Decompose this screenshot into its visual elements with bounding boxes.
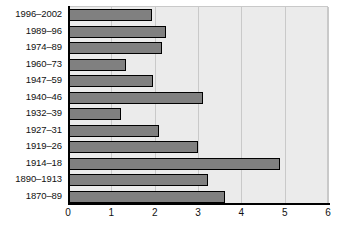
x-axis-tick-label: 1 [109,207,115,219]
bar [68,174,208,186]
y-axis-tick-label: 1927–31 [0,125,62,135]
y-axis-tick-label: 1996–2002 [0,9,62,19]
x-axis-tick-label: 4 [239,207,245,219]
x-axis-tick-label: 6 [325,207,331,219]
bar [68,75,153,87]
x-axis-tick-label: 0 [65,207,71,219]
bar [68,125,159,137]
bar-row [68,125,328,137]
y-axis-tick-label: 1890–1913 [0,174,62,184]
y-axis-tick-label: 1914–18 [0,158,62,168]
y-axis-spine [68,6,70,205]
x-axis-tick-label: 3 [195,207,201,219]
gridline [328,7,329,204]
bar-row [68,26,328,38]
bar [68,158,280,170]
bar-row [68,42,328,54]
x-axis-tick-label: 5 [282,207,288,219]
bar-row [68,9,328,21]
bar [68,191,225,203]
x-axis-tick-label: 2 [152,207,158,219]
y-axis-tick-label: 1870–89 [0,191,62,201]
x-axis-spine [68,203,330,205]
bar-chart: 1996–20021989–961974–891960–731947–59194… [0,0,342,233]
bar [68,42,162,54]
y-axis-tick-label: 1989–96 [0,26,62,36]
bar-row [68,59,328,71]
y-axis-tick-label: 1960–73 [0,59,62,69]
y-axis-tick-label: 1974–89 [0,42,62,52]
bar-row [68,75,328,87]
y-axis-tick-label: 1932–39 [0,108,62,118]
bar-row [68,174,328,186]
y-axis-tick-label: 1919–26 [0,141,62,151]
bar-row [68,191,328,203]
bar [68,92,203,104]
bar [68,108,121,120]
bar-row [68,92,328,104]
bar-row [68,108,328,120]
bar-row [68,158,328,170]
bar [68,59,126,71]
bar [68,141,198,153]
bar [68,9,152,21]
x-axis-tick-labels: 0123456 [68,207,330,223]
bar-row [68,141,328,153]
bar [68,26,166,38]
plot-area [68,6,328,204]
y-axis-tick-label: 1947–59 [0,75,62,85]
y-axis-tick-label: 1940–46 [0,92,62,102]
y-axis-tick-labels: 1996–20021989–961974–891960–731947–59194… [0,6,65,204]
